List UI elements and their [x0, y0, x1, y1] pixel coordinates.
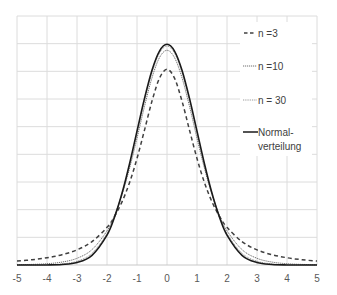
legend-label-line2: verteilung — [258, 141, 301, 152]
x-tick-label: 5 — [314, 273, 320, 284]
x-axis-tick-labels: -5-4-3-2-1012345 — [13, 273, 321, 284]
x-tick-label: 2 — [224, 273, 230, 284]
legend-label-line1: Normal- — [258, 127, 294, 138]
x-tick-label: 1 — [194, 273, 200, 284]
legend: n =3 n =10 n = 30 Normal- verteilung — [240, 22, 312, 156]
x-tick-label: 4 — [284, 273, 290, 284]
x-tick-label: -1 — [133, 273, 142, 284]
x-tick-label: -2 — [103, 273, 112, 284]
chart: -5-4-3-2-1012345 n =3 n =10 n = 30 Norma… — [0, 0, 337, 295]
x-tick-label: -3 — [73, 273, 82, 284]
x-tick-label: -4 — [43, 273, 52, 284]
legend-label: n =3 — [258, 28, 278, 39]
x-tick-label: 3 — [254, 273, 260, 284]
x-tick-label: 0 — [164, 273, 170, 284]
legend-label: n =10 — [258, 61, 284, 72]
legend-label: n = 30 — [258, 95, 287, 106]
x-tick-label: -5 — [13, 273, 22, 284]
